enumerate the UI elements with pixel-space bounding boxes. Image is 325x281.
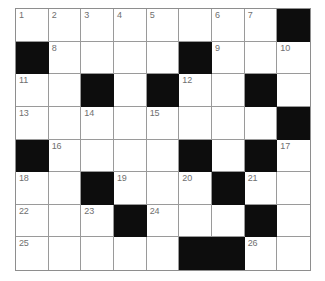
crossword-cell[interactable] — [179, 205, 212, 238]
crossword-cell[interactable]: 23 — [81, 205, 114, 238]
crossword-block-cell — [179, 140, 212, 173]
crossword-clue-number: 22 — [19, 205, 29, 217]
crossword-cell[interactable] — [49, 237, 82, 270]
crossword-cell[interactable] — [245, 107, 278, 140]
crossword-cell[interactable] — [212, 107, 245, 140]
crossword-cell[interactable] — [147, 172, 180, 205]
crossword-clue-number: 4 — [117, 9, 122, 21]
crossword-cell[interactable] — [212, 74, 245, 107]
crossword-cell[interactable] — [81, 42, 114, 75]
crossword-cell[interactable] — [49, 172, 82, 205]
crossword-block-cell — [212, 172, 245, 205]
crossword-cell[interactable]: 20 — [179, 172, 212, 205]
crossword-clue-number: 10 — [280, 42, 290, 54]
crossword-cell[interactable] — [81, 140, 114, 173]
crossword-cell[interactable] — [212, 140, 245, 173]
crossword-clue-number: 26 — [248, 237, 258, 249]
crossword-cell[interactable]: 5 — [147, 9, 180, 42]
crossword-block-cell — [277, 107, 310, 140]
crossword-block-cell — [16, 140, 49, 173]
crossword-cell[interactable]: 26 — [245, 237, 278, 270]
crossword-cell[interactable] — [114, 42, 147, 75]
crossword-puzzle: 1234567891011121314151617181920212223242… — [0, 0, 325, 281]
crossword-clue-number: 17 — [280, 140, 290, 152]
crossword-block-cell — [245, 205, 278, 238]
crossword-block-cell — [212, 237, 245, 270]
crossword-cell[interactable]: 12 — [179, 74, 212, 107]
crossword-cell[interactable] — [277, 172, 310, 205]
crossword-block-cell — [114, 205, 147, 238]
crossword-clue-number: 2 — [52, 9, 57, 21]
crossword-cell[interactable] — [114, 107, 147, 140]
crossword-block-cell — [81, 74, 114, 107]
crossword-block-cell — [277, 9, 310, 42]
crossword-cell[interactable] — [49, 107, 82, 140]
crossword-clue-number: 16 — [52, 140, 62, 152]
crossword-cell[interactable]: 22 — [16, 205, 49, 238]
crossword-clue-number: 9 — [215, 42, 220, 54]
crossword-cell[interactable]: 2 — [49, 9, 82, 42]
crossword-clue-number: 13 — [19, 107, 29, 119]
crossword-block-cell — [179, 237, 212, 270]
crossword-cell[interactable]: 8 — [49, 42, 82, 75]
crossword-cell[interactable] — [179, 107, 212, 140]
crossword-clue-number: 12 — [182, 74, 192, 86]
crossword-cell[interactable] — [147, 237, 180, 270]
crossword-cell[interactable] — [49, 74, 82, 107]
crossword-clue-number: 14 — [84, 107, 94, 119]
crossword-clue-number: 18 — [19, 172, 29, 184]
crossword-cell[interactable]: 18 — [16, 172, 49, 205]
crossword-clue-number: 19 — [117, 172, 127, 184]
crossword-cell[interactable]: 4 — [114, 9, 147, 42]
crossword-block-cell — [245, 74, 278, 107]
crossword-clue-number: 23 — [84, 205, 94, 217]
crossword-clue-number: 3 — [84, 9, 89, 21]
crossword-cell[interactable]: 7 — [245, 9, 278, 42]
crossword-cell[interactable] — [277, 205, 310, 238]
crossword-cell[interactable] — [114, 140, 147, 173]
crossword-clue-number: 11 — [19, 74, 28, 86]
crossword-grid[interactable]: 1234567891011121314151617181920212223242… — [15, 8, 311, 271]
crossword-clue-number: 6 — [215, 9, 220, 21]
crossword-cell[interactable]: 1 — [16, 9, 49, 42]
crossword-clue-number: 15 — [150, 107, 160, 119]
crossword-block-cell — [179, 42, 212, 75]
crossword-cell[interactable]: 24 — [147, 205, 180, 238]
crossword-cell[interactable] — [114, 74, 147, 107]
crossword-cell[interactable]: 13 — [16, 107, 49, 140]
crossword-cell[interactable]: 21 — [245, 172, 278, 205]
crossword-cell[interactable] — [277, 237, 310, 270]
crossword-cell[interactable] — [147, 140, 180, 173]
crossword-clue-number: 21 — [248, 172, 258, 184]
crossword-clue-number: 24 — [150, 205, 160, 217]
crossword-cell[interactable] — [245, 42, 278, 75]
crossword-cell[interactable] — [114, 237, 147, 270]
crossword-cell[interactable] — [49, 205, 82, 238]
crossword-cell[interactable]: 10 — [277, 42, 310, 75]
crossword-cell[interactable]: 3 — [81, 9, 114, 42]
crossword-cell[interactable]: 9 — [212, 42, 245, 75]
crossword-clue-number: 8 — [52, 42, 57, 54]
crossword-block-cell — [16, 42, 49, 75]
crossword-clue-number: 7 — [248, 9, 253, 21]
crossword-cell[interactable] — [147, 42, 180, 75]
crossword-clue-number: 1 — [19, 9, 24, 21]
crossword-clue-number: 20 — [182, 172, 192, 184]
crossword-cell[interactable]: 6 — [212, 9, 245, 42]
crossword-block-cell — [147, 74, 180, 107]
crossword-clue-number: 5 — [150, 9, 155, 21]
crossword-clue-number: 25 — [19, 237, 29, 249]
crossword-cell[interactable] — [179, 9, 212, 42]
crossword-cell[interactable]: 16 — [49, 140, 82, 173]
crossword-cell[interactable]: 17 — [277, 140, 310, 173]
crossword-cell[interactable] — [277, 74, 310, 107]
crossword-cell[interactable] — [81, 237, 114, 270]
crossword-block-cell — [245, 140, 278, 173]
crossword-block-cell — [81, 172, 114, 205]
crossword-cell[interactable]: 19 — [114, 172, 147, 205]
crossword-cell[interactable]: 14 — [81, 107, 114, 140]
crossword-cell[interactable]: 25 — [16, 237, 49, 270]
crossword-cell[interactable]: 15 — [147, 107, 180, 140]
crossword-cell[interactable]: 11 — [16, 74, 49, 107]
crossword-cell[interactable] — [212, 205, 245, 238]
